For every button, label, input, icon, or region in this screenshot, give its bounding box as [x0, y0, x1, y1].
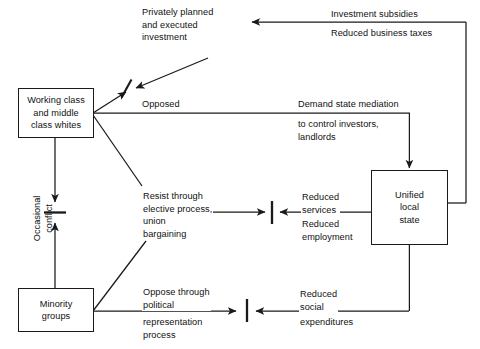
label-expenditures: expenditures — [299, 316, 354, 329]
node-working-class-label: Working class and middle class whites — [27, 94, 85, 132]
node-working-class-and-middle-class-whites[interactable]: Working class and middle class whites — [18, 88, 94, 138]
label-resist-through-elective-process: Resist through elective process, union b… — [142, 190, 213, 240]
label-oppose-through-political: Oppose through political — [142, 286, 211, 311]
label-privately-planned-investment: Privately planned and executed investmen… — [141, 6, 214, 44]
label-reduced-employment: Reduced employment — [301, 218, 354, 243]
label-opposed: Opposed — [141, 98, 181, 111]
node-minority-groups[interactable]: Minority groups — [18, 288, 94, 332]
label-demand-state-mediation: Demand state mediation — [297, 98, 400, 111]
label-to-control-investors-landlords: to control investors, landlords — [297, 118, 380, 143]
flow-diagram: Working class and middle class whites Mi… — [0, 0, 480, 349]
label-reduced-business-taxes: Reduced business taxes — [330, 27, 433, 40]
node-unified-local-state-label: Unified local state — [395, 189, 424, 227]
edge-working-to-investment — [93, 92, 126, 113]
label-reduced-services: Reduced services — [301, 191, 340, 216]
label-representation-process: representation process — [142, 316, 203, 341]
node-minority-groups-label: Minority groups — [40, 298, 73, 323]
block-bar-investment — [122, 80, 132, 98]
label-reduced-social: Reduced social — [299, 288, 338, 313]
edge-investment-down — [136, 58, 208, 88]
label-investment-subsidies: Investment subsidies — [330, 8, 419, 21]
edge-minority-to-resist — [93, 241, 146, 311]
node-unified-local-state[interactable]: Unified local state — [371, 170, 448, 245]
label-occasional-conflict: Occasional conflict — [31, 173, 56, 263]
edge-working-to-resist — [93, 115, 142, 186]
